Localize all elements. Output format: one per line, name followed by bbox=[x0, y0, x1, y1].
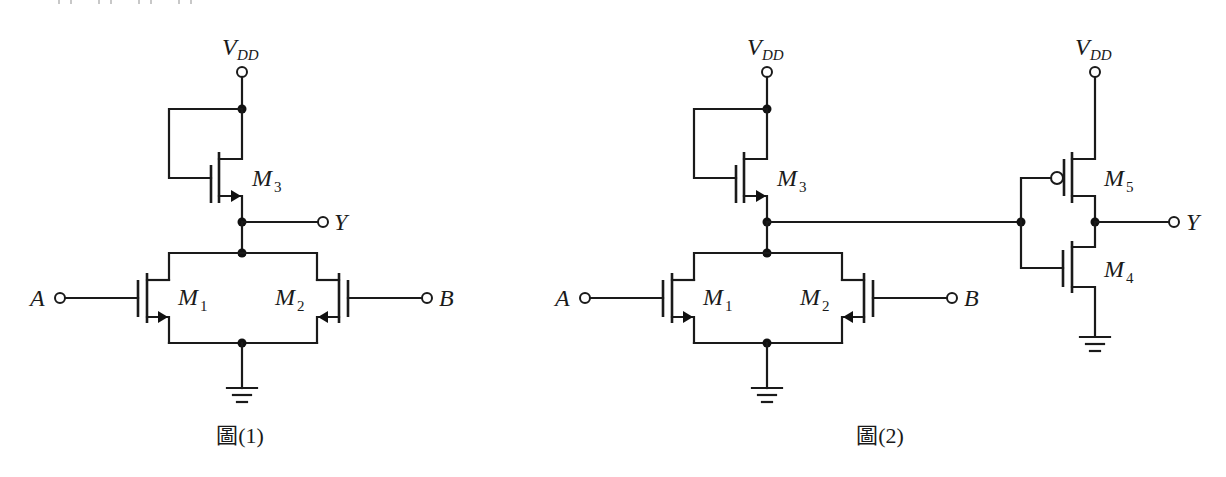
vdd-terminal: V DD bbox=[222, 34, 259, 77]
m1-subscript: 1 bbox=[200, 298, 208, 314]
m3-label: M bbox=[776, 165, 799, 191]
nmos-arrow-icon bbox=[756, 190, 766, 202]
transistor-m1: A M 1 bbox=[28, 273, 208, 343]
input-b-terminal-icon bbox=[422, 293, 432, 303]
circuit-canvas: V DD M 3 Y bbox=[0, 0, 1226, 477]
ground-icon bbox=[752, 343, 782, 402]
cmos-inverter: V DD M 5 Y bbox=[1021, 34, 1202, 351]
transistor-m1: A M 1 bbox=[553, 273, 733, 343]
m2-subscript: 2 bbox=[822, 298, 830, 314]
nmos-arrow-icon bbox=[231, 190, 241, 202]
transistor-m2: B M 2 bbox=[799, 273, 979, 343]
input-a-terminal-icon bbox=[55, 293, 65, 303]
m5-subscript: 5 bbox=[1126, 179, 1134, 195]
input-b-label: B bbox=[439, 285, 454, 311]
input-a-terminal-icon bbox=[580, 293, 590, 303]
m2-label: M bbox=[274, 284, 297, 310]
m2-subscript: 2 bbox=[297, 298, 305, 314]
m1-subscript: 1 bbox=[725, 298, 733, 314]
pmos-bubble-icon bbox=[1051, 172, 1063, 184]
m3-label: M bbox=[251, 165, 274, 191]
circuit-diagrams-page: V DD M 3 Y bbox=[0, 0, 1226, 477]
m5-label: M bbox=[1103, 165, 1126, 191]
ground-icon bbox=[1080, 337, 1110, 351]
m4-subscript: 4 bbox=[1126, 270, 1134, 286]
input-b-label: B bbox=[964, 285, 979, 311]
figure-2-caption: 圖(2) bbox=[856, 423, 904, 448]
vdd-terminal-icon bbox=[237, 67, 247, 77]
output-y-terminal-icon bbox=[1169, 217, 1179, 227]
output-y-terminal-icon bbox=[318, 217, 328, 227]
input-b-terminal-icon bbox=[947, 293, 957, 303]
input-a-label: A bbox=[28, 285, 45, 311]
output-y-label: Y bbox=[1186, 209, 1202, 235]
vdd-subscript: DD bbox=[1089, 47, 1112, 63]
nor-stage: V DD M 3 bbox=[553, 34, 979, 402]
vdd-terminal: V DD bbox=[747, 34, 784, 77]
nmos-arrow-icon bbox=[318, 311, 328, 323]
vdd-subscript: DD bbox=[236, 47, 259, 63]
cropped-text-fragments bbox=[58, 0, 192, 4]
m4-label: M bbox=[1103, 256, 1126, 282]
vdd-terminal-icon bbox=[1090, 67, 1100, 77]
vdd-terminal-icon bbox=[762, 67, 772, 77]
figure-1-nor-gate: V DD M 3 Y bbox=[28, 34, 454, 448]
m3-subscript: 3 bbox=[799, 179, 807, 195]
transistor-m2: B M 2 bbox=[274, 273, 454, 343]
figure-1-caption: 圖(1) bbox=[216, 423, 264, 448]
figure-2-nor-with-inverter: V DD M 3 bbox=[553, 34, 1202, 448]
m2-label: M bbox=[799, 284, 822, 310]
m1-label: M bbox=[702, 284, 725, 310]
transistor-m5: M 5 bbox=[1021, 77, 1134, 222]
ground-icon bbox=[227, 343, 257, 402]
m1-label: M bbox=[177, 284, 200, 310]
m3-subscript: 3 bbox=[274, 179, 282, 195]
nmos-arrow-icon bbox=[683, 311, 693, 323]
input-a-label: A bbox=[553, 285, 570, 311]
transistor-m4: M 4 bbox=[1021, 222, 1134, 337]
nmos-arrow-icon bbox=[843, 311, 853, 323]
transistor-m3: M 3 bbox=[169, 109, 282, 222]
transistor-m3: M 3 bbox=[694, 109, 807, 222]
nmos-arrow-icon bbox=[158, 311, 168, 323]
vdd-subscript: DD bbox=[761, 47, 784, 63]
vdd-terminal: V DD bbox=[1075, 34, 1112, 77]
output-y-label: Y bbox=[334, 209, 350, 235]
